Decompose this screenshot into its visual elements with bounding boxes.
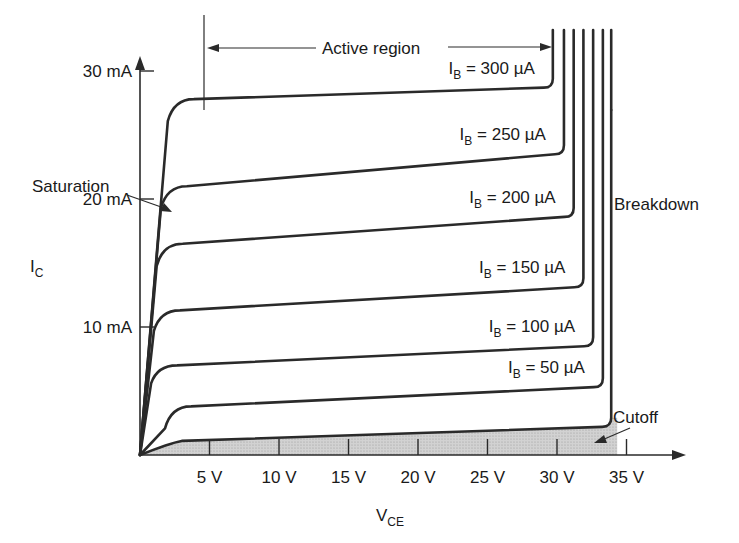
arrow-left-icon [207,44,219,52]
y-axis-arrow-icon [135,56,145,70]
curve-label: IB = 150 µA [479,258,566,281]
bjt-characteristic-chart: 5 V10 V15 V20 V25 V30 V35 V 10 mA20 mA30… [0,0,739,543]
saturation-label: Saturation [32,177,110,196]
characteristic-curve [140,110,611,455]
curve-label: IB = 100 µA [489,317,576,340]
x-tick-label: 10 V [262,468,298,487]
x-axis-arrow-icon [672,450,686,460]
x-axis-label: VCE [376,506,404,529]
curve-label: IB = 250 µA [460,125,547,148]
saturation-pointer-line [127,195,164,208]
x-tick-label: 25 V [470,468,506,487]
y-tick-label: 30 mA [83,62,133,81]
breakdown-label: Breakdown [614,195,699,214]
x-tick-label: 5 V [197,468,223,487]
characteristic-curves [140,30,611,455]
active-region-label: Active region [322,39,420,58]
arrow-right-icon [540,43,552,51]
curve-label: IB = 300 µA [448,59,535,82]
x-tick-label: 35 V [609,468,645,487]
curve-label: IB = 200 µA [469,188,556,211]
x-tick-label: 20 V [401,468,437,487]
y-tick-label: 10 mA [83,318,133,337]
y-axis-ticks: 10 mA20 mA30 mA [83,62,154,337]
cutoff-region-shading [140,418,617,455]
curve-label: IB = 50 µA [508,358,586,381]
cutoff-label: Cutoff [613,408,658,427]
x-tick-label: 15 V [331,468,367,487]
y-axis-label: IC [30,257,44,280]
x-tick-label: 30 V [540,468,576,487]
